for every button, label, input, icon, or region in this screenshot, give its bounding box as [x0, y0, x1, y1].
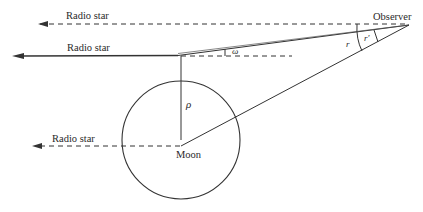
arrowhead-icon: [32, 143, 42, 149]
top-radio-star-ray: [38, 21, 409, 27]
arrowhead-icon: [38, 21, 48, 27]
occultation-diagram: Radio star Radio star Radio star Observe…: [0, 0, 423, 212]
r-prime-label: r′: [364, 33, 371, 43]
r-label: r: [346, 39, 350, 49]
moon-observer-line: [181, 25, 409, 146]
arrowhead-icon: [12, 53, 24, 59]
omega-label: ω: [232, 46, 238, 56]
angle-r-arc: [357, 24, 362, 51]
angle-r-prime-arc: [374, 30, 378, 42]
moon-radio-star-label: Radio star: [52, 133, 95, 144]
rho-label: ρ: [185, 98, 191, 110]
moon-label: Moon: [176, 149, 202, 160]
observer-label: Observer: [373, 11, 412, 22]
top-radio-star-label: Radio star: [66, 10, 109, 21]
grazing-radio-star-label: Radio star: [67, 42, 110, 53]
